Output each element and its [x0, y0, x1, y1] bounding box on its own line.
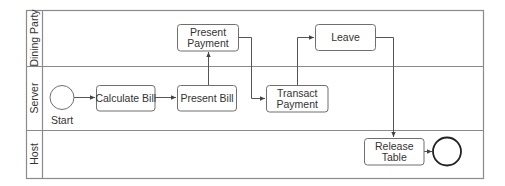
task-label: Leave [331, 31, 360, 43]
swimlane-diagram: Dining Party Server Host Start Calculate… [0, 0, 505, 186]
task-present-payment[interactable]: Present Payment [178, 25, 239, 52]
lane-server: Server [28, 82, 40, 113]
task-present-bill[interactable]: Present Bill [178, 86, 237, 112]
task-release-table[interactable]: Release Table [365, 139, 425, 166]
lane-host: Host [28, 143, 40, 165]
end-event-circle[interactable] [433, 138, 461, 166]
flow-transact-payment-to-leave [298, 38, 315, 86]
task-transact-payment[interactable]: Transact Payment [267, 86, 329, 113]
lane-label-host: Host [28, 143, 40, 165]
task-label-line-2: Table [382, 151, 407, 163]
task-label-line-2: Payment [187, 37, 229, 49]
end-event[interactable] [433, 138, 461, 166]
lane-label-dining-party: Dining Party [28, 9, 40, 67]
lane-label-server: Server [28, 82, 40, 113]
start-event[interactable]: Start [50, 86, 74, 127]
task-label-line-1: Transact [277, 87, 318, 99]
flow-leave-to-release-table [375, 38, 394, 138]
flow-present-payment-to-transact-payment [238, 38, 265, 99]
start-event-label: Start [51, 114, 73, 126]
task-label: Calculate Bill [95, 92, 156, 104]
task-label-line-2: Payment [277, 98, 319, 110]
task-label-line-1: Present [190, 26, 226, 38]
task-calculate-bill[interactable]: Calculate Bill [95, 86, 156, 112]
task-leave[interactable]: Leave [316, 25, 376, 51]
lane-dining-party: Dining Party [28, 9, 40, 67]
task-label: Present Bill [180, 92, 233, 104]
start-event-circle[interactable] [50, 86, 74, 110]
task-label-line-1: Release [375, 140, 414, 152]
